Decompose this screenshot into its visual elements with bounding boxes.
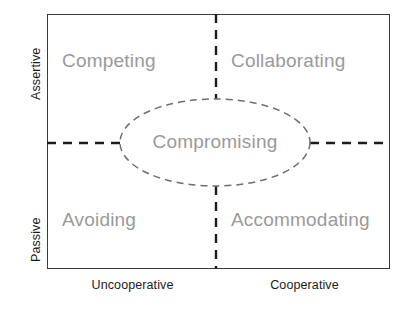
quadrant-label-accommodating: Accommodating [231,209,370,231]
axis-label-cooperative: Cooperative [232,278,377,292]
axis-label-passive: Passive [29,218,43,262]
conflict-grid-diagram: Assertive Passive Competing Collaboratin… [0,0,407,310]
axis-label-assertive: Assertive [29,48,43,100]
center-label-compromising: Compromising [120,131,310,153]
quadrant-label-competing: Competing [62,50,156,72]
quadrant-label-avoiding: Avoiding [62,209,136,231]
quadrant-label-collaborating: Collaborating [231,50,346,72]
axis-label-uncooperative: Uncooperative [60,278,205,292]
